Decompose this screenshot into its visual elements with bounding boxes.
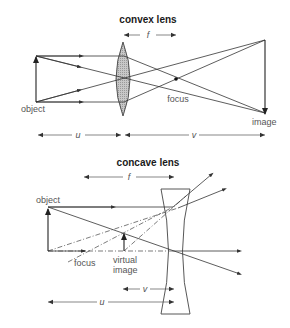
concave-u-label: u — [99, 297, 104, 307]
convex-focus-point — [174, 77, 178, 81]
convex-v-dimension: v — [125, 130, 265, 140]
concave-focus-point — [83, 250, 85, 252]
concave-object-label: object — [36, 195, 61, 205]
convex-u-label: u — [75, 130, 80, 140]
concave-lens-title: concave lens — [117, 157, 180, 168]
convex-focus-label: focus — [167, 94, 189, 104]
convex-lens-title: convex lens — [119, 14, 177, 25]
convex-f-label: f — [147, 30, 151, 40]
convex-image-label: image — [252, 117, 277, 127]
concave-u-dimension: u — [48, 297, 174, 307]
concave-lens-diagram: concave lens f — [36, 157, 240, 314]
convex-focal-length-dimension: f — [124, 30, 176, 40]
concave-focal-length-dimension: f — [84, 172, 174, 182]
convex-lens-diagram: convex lens f focus — [21, 14, 277, 140]
concave-f-label: f — [128, 172, 132, 182]
convex-rays — [36, 40, 265, 113]
concave-focus-label: focus — [74, 258, 96, 268]
convex-v-label: v — [192, 130, 197, 140]
concave-v-label: v — [143, 284, 148, 294]
concave-virtual-image-label-line1: virtual — [113, 255, 137, 265]
convex-u-dimension: u — [38, 130, 121, 140]
lens-diagram: convex lens f focus — [0, 0, 290, 328]
convex-object-label: object — [21, 104, 46, 114]
concave-virtual-image-label-line2: image — [113, 265, 138, 275]
